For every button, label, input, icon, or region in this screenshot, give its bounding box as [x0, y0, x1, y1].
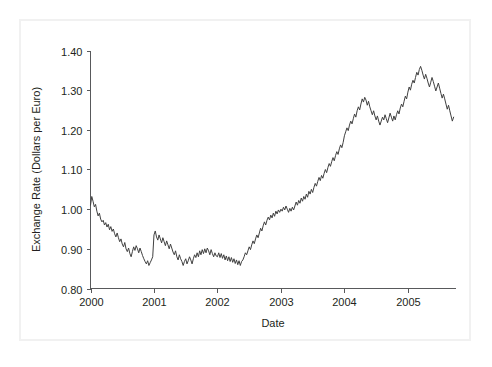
data-series-line	[91, 66, 454, 265]
x-tick-label: 2002	[205, 296, 229, 308]
y-tick-label: 0.80	[61, 284, 82, 296]
y-tick-label: 1.10	[61, 164, 82, 176]
x-axis-title: Date	[261, 317, 284, 329]
x-tick-label: 2003	[269, 296, 293, 308]
y-tick-label: 1.40	[61, 46, 82, 58]
x-tick-label: 2001	[142, 296, 166, 308]
y-tick-label: 1.30	[61, 85, 82, 97]
y-tick-label: 1.00	[61, 204, 82, 216]
x-tick-label: 2004	[332, 296, 356, 308]
y-tick-label: 1.20	[61, 125, 82, 137]
y-tick-label: 0.90	[61, 244, 82, 256]
axis-spine	[91, 51, 456, 289]
chart-svg: 0.800.901.001.101.201.301.40200020012002…	[0, 0, 492, 367]
y-axis-title: Exchange Rate (Dollars per Euro)	[30, 87, 42, 252]
exchange-rate-line-chart: 0.800.901.001.101.201.301.40200020012002…	[0, 0, 492, 367]
x-tick-label: 2005	[396, 296, 420, 308]
x-tick-label: 2000	[79, 296, 103, 308]
